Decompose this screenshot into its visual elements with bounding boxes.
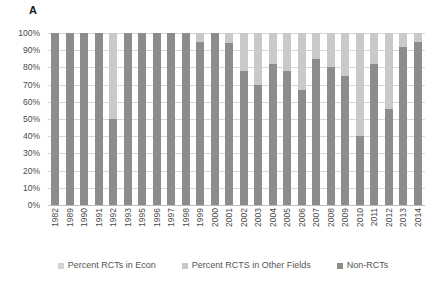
table-row[interactable] — [109, 33, 117, 205]
table-row[interactable] — [153, 33, 161, 205]
table-row[interactable] — [385, 33, 393, 205]
bar-segment — [109, 119, 117, 205]
x-label-slot: 2007 — [309, 207, 324, 251]
y-axis-tick-label: 100% — [18, 29, 40, 38]
bar-segment — [269, 33, 277, 64]
x-label-slot: 2006 — [295, 207, 310, 251]
x-axis-tick-label: 1982 — [51, 208, 60, 227]
bar-slot — [164, 33, 179, 205]
x-axis-tick-label: 2010 — [355, 208, 364, 227]
legend-item[interactable]: Percent RCTS in Other Fields — [182, 260, 311, 271]
legend-item[interactable]: Non-RCTs — [337, 260, 389, 271]
table-row[interactable] — [80, 33, 88, 205]
table-row[interactable] — [399, 33, 407, 205]
x-axis-tick-label: 2007 — [312, 208, 321, 227]
table-row[interactable] — [240, 33, 248, 205]
x-label-slot: 2005 — [280, 207, 295, 251]
x-axis-tick-label: 1999 — [196, 208, 205, 227]
table-row[interactable] — [95, 33, 103, 205]
bar-slot — [353, 33, 368, 205]
table-row[interactable] — [312, 33, 320, 205]
legend-swatch-icon — [58, 263, 64, 269]
bar-segment — [385, 33, 393, 109]
x-axis-tick-label: 1990 — [80, 208, 89, 227]
table-row[interactable] — [254, 33, 262, 205]
bar-segment — [399, 47, 407, 205]
x-axis-tick-label: 2012 — [384, 208, 393, 227]
x-label-slot: 2011 — [367, 207, 382, 251]
x-axis-labels: 1982198919901991199219931995199619971998… — [48, 207, 425, 251]
x-label-slot: 1982 — [48, 207, 63, 251]
table-row[interactable] — [370, 33, 378, 205]
x-label-slot: 1989 — [63, 207, 78, 251]
table-row[interactable] — [138, 33, 146, 205]
table-row[interactable] — [414, 33, 422, 205]
table-row[interactable] — [124, 33, 132, 205]
table-row[interactable] — [298, 33, 306, 205]
bar-segment — [153, 33, 161, 205]
bar-slot — [63, 33, 78, 205]
bar-slot — [411, 33, 426, 205]
bar-slot — [324, 33, 339, 205]
bar-segment — [385, 109, 393, 205]
bar-slot — [121, 33, 136, 205]
legend-item[interactable]: Percent RCTs in Econ — [58, 260, 156, 271]
bar-segment — [254, 85, 262, 205]
x-axis-tick-label: 1996 — [152, 208, 161, 227]
table-row[interactable] — [211, 33, 219, 205]
table-row[interactable] — [327, 33, 335, 205]
bar-segment — [414, 42, 422, 205]
y-axis-tick-label: 70% — [23, 80, 40, 89]
bar-segment — [124, 33, 132, 205]
bar-segment — [225, 43, 233, 205]
table-row[interactable] — [341, 33, 349, 205]
bar-segment — [283, 33, 291, 71]
x-label-slot: 2001 — [222, 207, 237, 251]
x-axis-tick-label: 2014 — [413, 208, 422, 227]
bar-slot — [266, 33, 281, 205]
bar-slot — [280, 33, 295, 205]
bar-segment — [109, 33, 117, 119]
bar-segment — [269, 64, 277, 205]
x-axis-tick-label: 2002 — [239, 208, 248, 227]
bar-segment — [240, 71, 248, 205]
y-axis-tick-label: 10% — [23, 183, 40, 192]
bar-segment — [95, 33, 103, 205]
bar-slot — [251, 33, 266, 205]
y-axis-tick-label: 50% — [23, 115, 40, 124]
bar-segment — [356, 33, 364, 136]
bar-segment — [254, 33, 262, 85]
bar-slot — [396, 33, 411, 205]
bar-slot — [193, 33, 208, 205]
table-row[interactable] — [356, 33, 364, 205]
table-row[interactable] — [66, 33, 74, 205]
bar-segment — [414, 33, 422, 42]
bar-segment — [51, 33, 59, 205]
x-axis-tick-label: 1995 — [138, 208, 147, 227]
y-axis-tick-label: 80% — [23, 63, 40, 72]
x-axis-tick-label: 2001 — [225, 208, 234, 227]
x-axis-tick-label: 2006 — [297, 208, 306, 227]
bar-segment — [399, 33, 407, 47]
bar-slot — [135, 33, 150, 205]
bar-slot — [367, 33, 382, 205]
table-row[interactable] — [269, 33, 277, 205]
table-row[interactable] — [51, 33, 59, 205]
x-axis-tick-label: 2000 — [210, 208, 219, 227]
y-axis-tick-label: 20% — [23, 166, 40, 175]
table-row[interactable] — [196, 33, 204, 205]
x-axis-tick-label: 1991 — [94, 208, 103, 227]
bar-segment — [283, 71, 291, 205]
table-row[interactable] — [182, 33, 190, 205]
table-row[interactable] — [283, 33, 291, 205]
bar-segment — [225, 33, 233, 43]
x-axis-tick-label: 2013 — [399, 208, 408, 227]
bar-series-group — [48, 33, 425, 205]
bar-segment — [370, 64, 378, 205]
legend-label: Non-RCTs — [347, 260, 389, 271]
y-axis-tick-label: 0% — [28, 201, 40, 210]
table-row[interactable] — [225, 33, 233, 205]
table-row[interactable] — [167, 33, 175, 205]
chart-figure: A 100%90%80%70%60%50%40%30%20%10%0% 1982… — [0, 0, 446, 281]
bar-segment — [138, 33, 146, 205]
